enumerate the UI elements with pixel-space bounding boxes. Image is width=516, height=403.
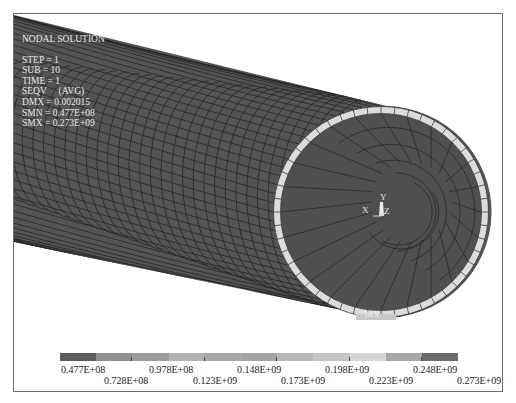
legend-swatch [386,353,422,361]
legend-label: 0.148E+09 [237,364,281,375]
legend-label: 0.477E+08 [61,364,105,375]
legend-swatch [313,353,349,361]
legend-swatch [350,353,386,361]
triad-y-label: Y [380,192,387,202]
legend-label: 0.273E+09 [457,375,501,386]
legend-swatch [277,353,313,361]
min-stress: SMN = 0.477E+08 [22,108,105,119]
legend-swatch [132,353,168,361]
legend-label: 0.198E+09 [325,364,369,375]
max-marker-label: MX [365,309,380,319]
step-value: STEP = 1 [22,55,105,66]
legend-swatch [205,353,241,361]
legend-swatch [422,353,458,361]
legend-label: 0.123E+09 [193,375,237,386]
triad-x-label: X [362,205,369,215]
legend-swatch [169,353,205,361]
plot-title: NODAL SOLUTION [22,34,105,45]
time-value: TIME = 1 [22,76,105,87]
solution-info-block: NODAL SOLUTION STEP = 1 SUB = 10 TIME = … [22,34,105,129]
result-quantity: SEQV (AVG) [22,86,105,97]
max-stress: SMX = 0.273E+09 [22,118,105,129]
legend-label: 0.978E+08 [149,364,193,375]
legend-swatch [60,353,96,361]
substep-value: SUB = 10 [22,65,105,76]
max-displacement: DMX = 0.002015 [22,97,105,108]
legend-swatch [96,353,132,361]
triad-z-label: Z [384,206,390,216]
legend-label: 0.173E+09 [281,375,325,386]
legend-label: 0.223E+09 [369,375,413,386]
legend-label: 0.728E+08 [104,375,148,386]
legend-label: 0.248E+09 [413,364,457,375]
contour-legend-bar [60,353,458,361]
legend-swatch [241,353,277,361]
